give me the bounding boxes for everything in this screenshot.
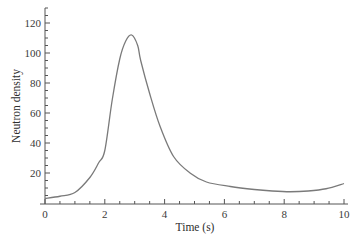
y-tick-label: 80 [30,77,42,89]
x-tick-label: 2 [102,208,108,220]
line-chart: 20406080100120 0246810 Time (s) Neutron … [0,0,363,244]
x-tick-label: 8 [281,208,287,220]
y-tick-label: 100 [25,47,42,59]
y-tick-label: 40 [30,137,42,149]
x-tick-label: 10 [339,208,351,220]
x-axis-label: Time (s) [176,221,215,234]
x-tick-label: 0 [42,208,48,220]
y-tick-label: 120 [25,17,42,29]
x-tick-label: 4 [162,208,168,220]
y-tick-label: 60 [30,107,42,119]
x-tick-label: 6 [222,208,228,220]
y-tick-label: 20 [30,167,42,179]
y-axis: 20406080100120 [25,8,51,204]
x-axis: 0246810 [40,199,350,220]
data-line-neutron-density [45,35,344,199]
y-axis-label: Neutron density [10,69,23,143]
